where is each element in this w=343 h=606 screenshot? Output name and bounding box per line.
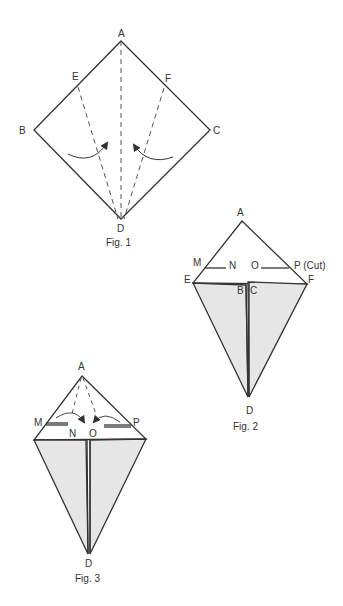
label-o: O [89, 428, 97, 439]
caption-fig-2: Fig. 2 [233, 421, 258, 432]
label-c: C [213, 125, 220, 136]
fold-line-df [124, 88, 164, 219]
label-f: F [308, 274, 314, 285]
label-f: F [165, 73, 171, 84]
label-m: M [193, 257, 201, 268]
top-triangle [193, 221, 307, 284]
origami-diagram: A B C D E F Fig. 1 A M N O P (Cut) E F B… [0, 0, 343, 606]
label-n: N [69, 428, 76, 439]
square-outline [34, 41, 210, 219]
label-p-cut: P (Cut) [294, 260, 326, 271]
label-b: B [237, 285, 244, 296]
label-b: B [19, 125, 26, 136]
left-flap [193, 283, 248, 397]
right-flap [90, 439, 146, 554]
label-d: D [246, 405, 253, 416]
left-flap [34, 440, 88, 554]
label-o: O [251, 260, 259, 271]
label-m: M [34, 417, 42, 428]
right-flap [248, 282, 307, 397]
label-d: D [117, 223, 124, 234]
label-n: N [229, 260, 236, 271]
label-e: E [184, 274, 191, 285]
label-a: A [118, 28, 125, 39]
label-p: P [133, 417, 140, 428]
label-c: C [250, 285, 257, 296]
caption-fig-3: Fig. 3 [75, 573, 100, 584]
label-e: E [72, 71, 79, 82]
label-a: A [78, 361, 85, 372]
figure-1: A B C D E F Fig. 1 [19, 28, 220, 248]
fold-arrow-left-icon [68, 143, 107, 158]
label-d: D [85, 558, 92, 569]
label-a: A [237, 207, 244, 218]
figure-2: A M N O P (Cut) E F B C D Fig. 2 [184, 207, 326, 432]
caption-fig-1: Fig. 1 [106, 237, 131, 248]
figure-3: A M N O P D Fig. 3 [34, 361, 146, 584]
fold-arrow-right-icon [134, 145, 173, 160]
